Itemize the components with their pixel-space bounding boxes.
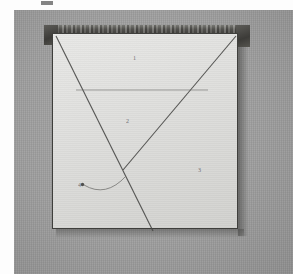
frame-corner-block-right bbox=[236, 25, 250, 47]
panel-shadow-bottom bbox=[56, 229, 244, 238]
marker-label-2: 2 bbox=[126, 118, 129, 124]
mounted-sheet bbox=[52, 33, 238, 229]
crop-artifact-ink-fragment bbox=[41, 1, 53, 5]
marker-label-3: 3 bbox=[198, 167, 201, 173]
marker-label-4: 4 bbox=[78, 182, 81, 188]
panel-shadow-right bbox=[238, 40, 248, 236]
figure-root: 1 2 3 4 bbox=[0, 0, 293, 274]
marker-label-1: 1 bbox=[133, 55, 136, 61]
